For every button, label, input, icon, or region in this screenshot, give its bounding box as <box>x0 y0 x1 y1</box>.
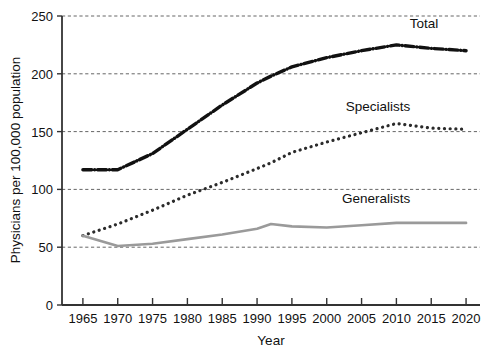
x-tick-label-1970: 1970 <box>103 311 132 326</box>
x-tick-label-2015: 2015 <box>417 311 446 326</box>
x-tick-label-1975: 1975 <box>138 311 167 326</box>
series-label-total: Total <box>410 16 439 31</box>
x-axis-title: Year <box>257 333 285 348</box>
series-label-specialists: Specialists <box>346 99 411 114</box>
y-tick-label-100: 100 <box>31 182 53 197</box>
y-axis-title: Physicians per 100,000 population <box>8 57 23 263</box>
y-tick-label-250: 250 <box>31 9 53 24</box>
series-line-specialists <box>83 124 466 236</box>
x-tick-label-2000: 2000 <box>312 311 341 326</box>
physicians-line-chart: 050100150200250 196519701975198019851990… <box>0 0 502 363</box>
chart-figure: 050100150200250 196519701975198019851990… <box>0 0 502 363</box>
y-tick-label-200: 200 <box>31 67 53 82</box>
x-tick-label-1980: 1980 <box>173 311 202 326</box>
x-tick-label-1985: 1985 <box>208 311 237 326</box>
series-line-generalists <box>83 223 466 246</box>
x-tick-label-2005: 2005 <box>347 311 376 326</box>
x-tick-label-1990: 1990 <box>243 311 272 326</box>
x-tick-label-2010: 2010 <box>382 311 411 326</box>
x-tick-label-1995: 1995 <box>277 311 306 326</box>
x-tick-label-1965: 1965 <box>68 311 97 326</box>
gridlines <box>62 16 480 247</box>
y-tick-labels: 050100150200250 <box>31 9 62 313</box>
series-label-generalists: Generalists <box>342 191 411 206</box>
x-tick-label-2020: 2020 <box>452 311 481 326</box>
data-series <box>83 45 466 246</box>
series-annotations: TotalSpecialistsGeneralists <box>342 16 438 207</box>
x-tick-labels: 1965197019751980198519901995200020052010… <box>68 311 480 326</box>
y-tick-label-150: 150 <box>31 125 53 140</box>
x-axis <box>62 298 480 305</box>
y-tick-label-0: 0 <box>46 298 53 313</box>
y-tick-label-50: 50 <box>39 240 53 255</box>
